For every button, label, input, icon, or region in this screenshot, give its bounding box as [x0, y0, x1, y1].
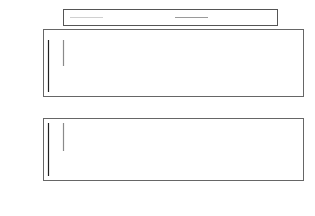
power-axes-frame [44, 119, 304, 181]
temperature-plot [44, 30, 304, 97]
legend [64, 10, 278, 26]
temperature-axes-frame [44, 30, 304, 97]
heating-power-plot [44, 119, 304, 181]
figure [0, 0, 315, 216]
